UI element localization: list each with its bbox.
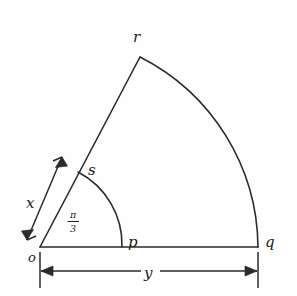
y-dimension-arrowhead-left [41,266,53,276]
angle-denominator: 3 [70,223,76,234]
outer-arc-r-q [140,57,258,247]
y-dimension-arrowhead-right [245,266,257,276]
label-point-p: p [128,233,138,251]
inner-arc-s-p [78,172,122,247]
ray-o-r [40,57,140,247]
geometry-figure: π 3 o p q r s x y [0,0,297,296]
label-point-s: s [88,161,96,179]
label-point-r: r [133,28,141,46]
label-point-q: q [265,233,275,251]
label-dimension-x: x [26,194,35,212]
label-dimension-y: y [143,264,153,282]
diagram-canvas: π 3 o p q r s x y [0,0,297,296]
angle-numerator: π [69,209,77,220]
label-point-o: o [28,250,36,265]
